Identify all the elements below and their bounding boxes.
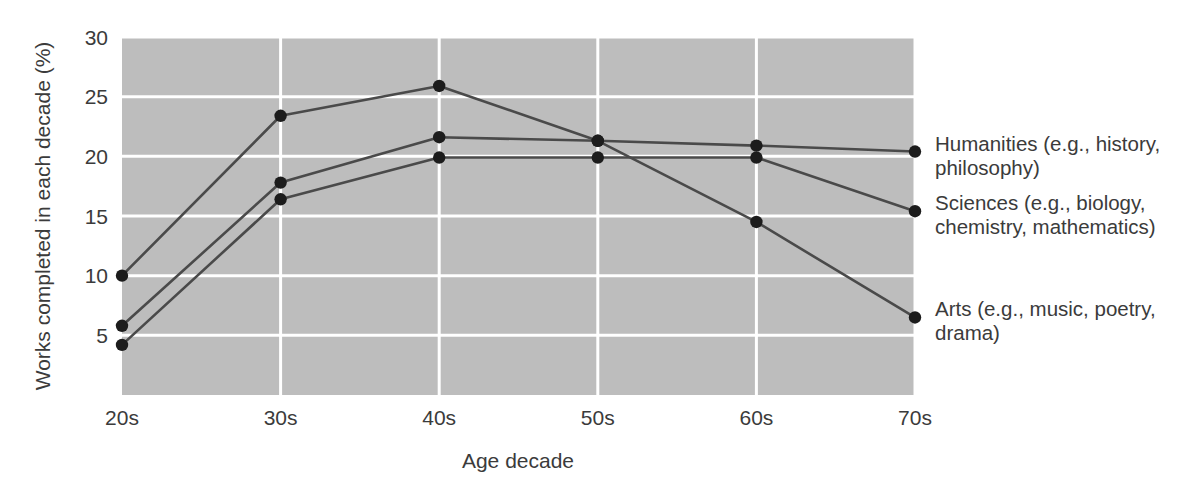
data-point-marker [116,269,128,281]
x-axis-tick-labels: 20s30s40s50s60s70s [105,406,932,429]
data-point-marker [909,145,921,157]
data-point-marker [116,320,128,332]
data-point-marker [274,110,286,122]
y-tick-label-20: 20 [85,145,108,168]
series-label-line2: philosophy) [935,156,1040,179]
data-point-marker [433,151,445,163]
chart-canvas: 51015202530 20s30s40s50s60s70s Works com… [0,0,1200,480]
y-tick-label-5: 5 [96,324,108,347]
y-tick-label-10: 10 [85,264,108,287]
data-point-marker [116,339,128,351]
series-label-1: Humanities (e.g., history,philosophy) [935,132,1160,179]
series-label-line1: Sciences (e.g., biology, [935,191,1145,214]
data-point-marker [750,216,762,228]
x-tick-label-60s: 60s [739,406,773,429]
data-point-marker [274,176,286,188]
data-point-marker [909,311,921,323]
x-tick-label-20s: 20s [105,406,139,429]
y-axis-title: Works completed in each decade (%) [31,42,54,391]
y-axis-tick-labels: 51015202530 [85,26,108,347]
series-label-line1: Arts (e.g., music, poetry, [935,297,1156,320]
series-inline-labels: Arts (e.g., music, poetry,drama)Humaniti… [935,132,1160,345]
data-point-marker [909,205,921,217]
data-point-marker [433,131,445,143]
series-label-0: Arts (e.g., music, poetry,drama) [935,297,1156,344]
line-chart-figure: 51015202530 20s30s40s50s60s70s Works com… [0,0,1200,480]
data-point-marker [592,135,604,147]
x-axis-title: Age decade [462,449,574,472]
y-tick-label-25: 25 [85,85,108,108]
series-label-2: Sciences (e.g., biology,chemistry, mathe… [935,191,1156,238]
series-label-line1: Humanities (e.g., history, [935,132,1160,155]
series-label-line2: chemistry, mathematics) [935,215,1156,238]
x-tick-label-30s: 30s [264,406,298,429]
data-point-marker [274,193,286,205]
x-tick-label-70s: 70s [898,406,932,429]
x-tick-label-40s: 40s [422,406,456,429]
y-tick-label-15: 15 [85,205,108,228]
x-tick-label-50s: 50s [581,406,615,429]
data-point-marker [750,151,762,163]
data-point-marker [433,80,445,92]
y-tick-label-30: 30 [85,26,108,49]
series-label-line2: drama) [935,321,1000,344]
data-point-marker [592,151,604,163]
data-point-marker [750,139,762,151]
